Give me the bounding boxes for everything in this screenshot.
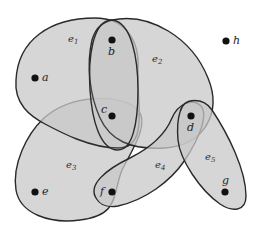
vertex-a bbox=[31, 74, 38, 81]
vertex-label-b: b bbox=[108, 45, 115, 58]
vertex-label-a: a bbox=[42, 71, 49, 84]
vertex-c bbox=[108, 112, 115, 119]
vertex-label-c: c bbox=[101, 103, 107, 116]
vertex-label-d: d bbox=[187, 121, 194, 134]
vertex-d bbox=[187, 112, 194, 119]
vertex-f bbox=[108, 188, 115, 195]
vertex-label-g: g bbox=[222, 174, 229, 187]
hypergraph-diagram: e1 e2 e3 e4 e5 a b c d e f g h bbox=[0, 0, 258, 237]
vertex-e bbox=[31, 188, 38, 195]
vertex-label-e: e bbox=[42, 185, 49, 198]
vertex-label-h: h bbox=[233, 34, 240, 47]
vertex-h bbox=[222, 37, 229, 44]
vertex-b bbox=[108, 36, 115, 43]
vertex-g bbox=[221, 188, 228, 195]
